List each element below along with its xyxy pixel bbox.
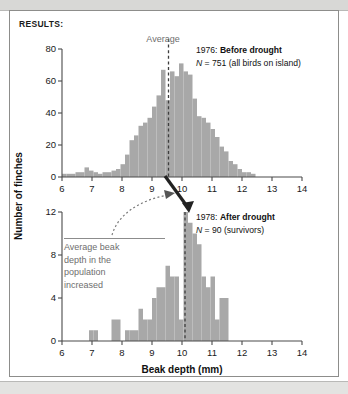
histogram-bar [206,123,211,177]
legend-condition-after: After drought [220,212,275,222]
histogram-bar [238,169,243,177]
y-tick-label: 4 [51,292,56,303]
histogram-bar [157,95,162,177]
x-tick-label: 8 [119,347,124,358]
histogram-bar [130,330,135,341]
figure-page: RESULTS: 0204060806789101112131404812678… [0,0,348,394]
histogram-bar [175,277,180,342]
x-tick-label: 6 [59,183,64,194]
legend-year-1976: 1976: [196,45,218,55]
x-tick-label: 6 [59,347,64,358]
histogram-bar [139,126,144,177]
histogram-bar [112,171,117,177]
histogram-bar [206,287,211,341]
x-tick-label: 12 [237,183,248,194]
x-tick-label: 9 [149,183,154,194]
callout-leader-arrowhead [164,190,175,199]
histogram-bar [242,172,247,177]
histogram-bar [103,172,108,177]
y-tick-label: 80 [45,43,56,54]
callout-line-2: depth in the [64,254,119,267]
histogram-bar [116,169,121,177]
legend-n-value-1976: = 751 (all birds on island) [202,58,301,68]
histogram-bar [188,223,193,341]
x-tick-label: 13 [267,183,278,194]
histogram-bar [152,298,157,341]
callout-line-4: increased [64,279,119,292]
histogram-bar [89,171,94,177]
histogram-bar [202,277,207,342]
histogram-bar [152,107,157,177]
legend-before-drought: 1976: Before drought N = 751 (all birds … [196,44,301,69]
histogram-bar [85,167,90,177]
x-tick-label: 14 [297,183,308,194]
histogram-bar [80,172,85,177]
histogram-bar [148,118,153,177]
x-tick-label: 8 [119,183,124,194]
legend-year-1978: 1978: [196,212,218,222]
histogram-bar [233,164,238,177]
callout-leader-path [112,195,168,235]
histogram-bar [188,75,193,177]
callout-line-3: population [64,266,119,279]
y-tick-label: 12 [45,206,56,217]
histogram-bar [161,287,166,341]
histogram-bar [161,70,166,177]
histogram-bar [157,287,162,341]
histogram-bar [224,298,229,341]
histogram-bar [193,99,198,177]
y-tick-label: 0 [51,171,56,182]
histogram-bar [202,118,207,177]
shift-arrow-head [182,201,194,213]
histogram-bar [139,309,144,341]
callout-leader [112,190,175,235]
histogram-bar [76,172,81,177]
x-tick-label: 11 [207,183,217,194]
callout-average-beak-depth: Average beak depth in the population inc… [64,241,119,291]
x-tick-label: 14 [297,347,308,358]
x-tick-label: 7 [89,183,94,194]
histogram-bar [134,135,139,177]
x-tick-label: 9 [149,347,154,358]
x-tick-label: 11 [207,347,217,358]
histogram-bar [179,320,184,342]
y-tick-label: 0 [51,335,56,346]
histogram-bar [143,320,148,342]
histogram-bar [229,161,234,177]
histogram-bar [112,320,117,342]
histogram-bar [215,320,220,342]
histogram-bar [121,164,126,177]
average-label: Average [146,34,179,44]
histogram-bar [130,140,135,177]
histogram-bar [170,71,175,177]
legend-condition-before: Before drought [220,45,282,55]
histogram-bar [94,172,99,177]
histogram-bar [247,172,252,177]
histogram-bar [166,100,171,177]
y-tick-label: 8 [51,249,56,260]
histogram-bar [224,151,229,177]
histogram-bar [184,71,189,177]
histogram-bar [143,123,148,177]
histogram-bar [220,147,225,177]
legend-after-drought: 1978: After drought N = 90 (survivors) [196,211,275,236]
x-tick-label: 7 [89,347,94,358]
histogram-bar [94,330,99,341]
histogram-bar [89,330,94,341]
histogram-bar [125,330,130,341]
histogram-bar [125,155,130,177]
histogram-bar [197,244,202,341]
histogram-bar [193,234,198,342]
y-tick-label: 20 [45,139,56,150]
histogram-bar [107,172,112,177]
histogram-bar [197,116,202,177]
legend-n-value-1978: = 90 (survivors) [202,225,264,235]
histogram-bar [211,277,216,342]
callout-rule [64,238,165,239]
histogram-bar [179,63,184,177]
histogram-bar [166,266,171,341]
histogram-bar [116,320,121,342]
histogram-bar [175,76,180,177]
y-axis-title: Number of finches [13,152,24,240]
x-tick-label: 10 [177,347,188,358]
